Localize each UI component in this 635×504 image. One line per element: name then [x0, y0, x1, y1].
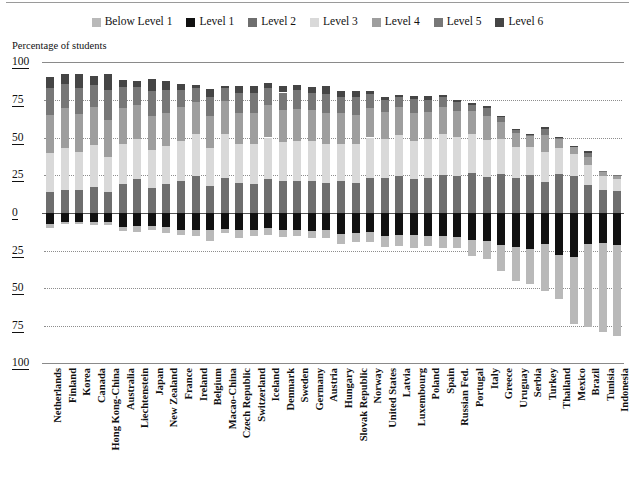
- bar-segment: [541, 152, 549, 182]
- bar-segment: [279, 86, 287, 93]
- bar-segment: [570, 257, 578, 324]
- x-category-label: Tunisia: [607, 368, 615, 401]
- bar-segment: [148, 116, 156, 151]
- legend-swatch-icon: [434, 18, 443, 27]
- legend-label: Level 3: [323, 16, 358, 28]
- x-category-label: Korea: [83, 368, 91, 396]
- bar-segment: [279, 230, 287, 237]
- bar-segment: [133, 226, 141, 232]
- bar-segment: [235, 144, 243, 183]
- bar-segment: [366, 232, 374, 242]
- bar-segment: [453, 137, 461, 176]
- bar-segment: [584, 151, 592, 153]
- bar-segment: [75, 74, 83, 88]
- x-category-label: Greece: [505, 368, 513, 399]
- bar-segment: [61, 108, 69, 147]
- y-axis-title: Percentage of students: [12, 40, 106, 51]
- x-category-label: Mexico: [578, 368, 586, 401]
- x-category-label: Slovak Republic: [360, 368, 368, 441]
- x-category-label: Finland: [69, 368, 77, 403]
- bar-segment: [468, 134, 476, 173]
- legend-swatch-icon: [92, 18, 101, 27]
- y-tick-label: 100: [12, 55, 29, 67]
- bar-segment: [90, 145, 98, 187]
- x-category-label: Czech Republic: [243, 368, 251, 438]
- bar-segment: [148, 91, 156, 115]
- bar-segment: [264, 105, 272, 137]
- bar-segment: [599, 243, 607, 332]
- bar-column: [90, 62, 98, 363]
- bar-segment: [308, 213, 316, 231]
- bar-column: [410, 62, 418, 363]
- bar-segment: [308, 110, 316, 141]
- bar-segment: [555, 174, 563, 213]
- bar-column: [250, 62, 258, 363]
- bar-segment: [293, 85, 301, 90]
- bar-segment: [395, 213, 403, 235]
- bar-segment: [162, 227, 170, 234]
- bar-segment: [61, 222, 69, 224]
- bar-segment: [468, 105, 476, 111]
- legend-swatch-icon: [186, 18, 195, 27]
- bar-segment: [322, 230, 330, 238]
- bar-column: [381, 62, 389, 363]
- bar-segment: [613, 245, 621, 336]
- bar-segment: [206, 148, 214, 186]
- legend-label: Level 4: [385, 16, 420, 28]
- bar-segment: [570, 213, 578, 257]
- bar-segment: [366, 91, 374, 94]
- bar-segment: [381, 236, 389, 247]
- bar-segment: [381, 100, 389, 112]
- bar-segment: [279, 181, 287, 213]
- bar-column: [264, 62, 272, 363]
- bar-segment: [264, 138, 272, 180]
- bar-segment: [104, 120, 112, 157]
- bar-segment: [439, 213, 447, 236]
- bar-segment: [512, 147, 520, 178]
- bar-segment: [352, 144, 360, 183]
- bar-column: [439, 62, 447, 363]
- legend-label: Level 2: [261, 16, 296, 28]
- bar-segment: [424, 139, 432, 178]
- bar-segment: [497, 122, 505, 139]
- bar-segment: [395, 135, 403, 176]
- bar-segment: [599, 171, 607, 172]
- bar-segment: [541, 182, 549, 213]
- bar-segment: [322, 144, 330, 183]
- bar-segment: [192, 213, 200, 230]
- bar-segment: [75, 222, 83, 224]
- bar-segment: [410, 99, 418, 113]
- bar-segment: [235, 213, 243, 230]
- bar-segment: [148, 188, 156, 213]
- bar-segment: [352, 97, 360, 115]
- bar-column: [308, 62, 316, 363]
- bar-segment: [148, 150, 156, 188]
- bar-segment: [46, 115, 54, 153]
- x-category-label: Italy: [491, 368, 499, 389]
- bar-segment: [453, 100, 461, 102]
- legend-item: Below Level 1: [92, 16, 173, 28]
- bar-segment: [162, 146, 170, 185]
- bar-column: [555, 62, 563, 363]
- bar-segment: [483, 116, 491, 139]
- bar-segment: [352, 183, 360, 213]
- y-tick-value: 75: [12, 319, 24, 333]
- x-category-label: Netherlands: [54, 368, 62, 423]
- bar-column: [177, 62, 185, 363]
- bar-segment: [584, 185, 592, 213]
- x-category-label: Denmark: [287, 368, 295, 411]
- legend-item: Level 3: [310, 16, 358, 28]
- bar-segment: [395, 235, 403, 246]
- bar-segment: [366, 138, 374, 178]
- bar-segment: [206, 230, 214, 241]
- bar-column: [570, 62, 578, 363]
- bar-column: [322, 62, 330, 363]
- bar-segment: [104, 192, 112, 213]
- bar-segment: [555, 138, 563, 140]
- bar-segment: [119, 184, 127, 213]
- bar-segment: [555, 255, 563, 299]
- bar-segment: [497, 139, 505, 174]
- bar-segment: [279, 213, 287, 230]
- bar-column: [279, 62, 287, 363]
- bar-column: [395, 62, 403, 363]
